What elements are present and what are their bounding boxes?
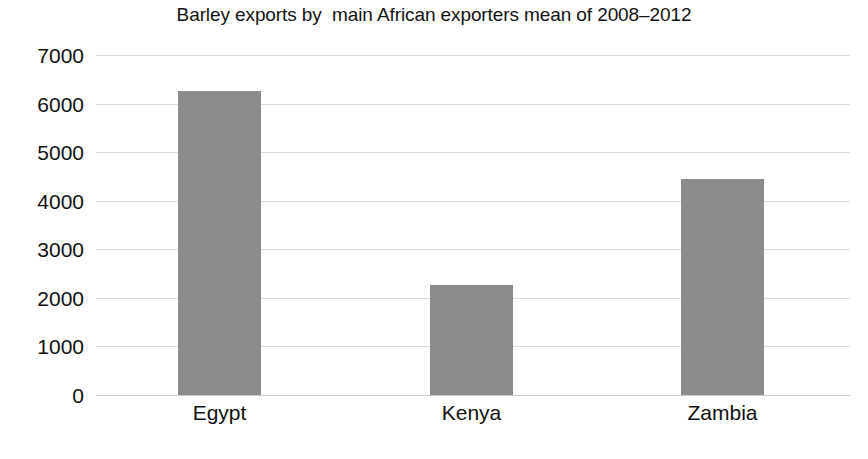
- gridline-7000: [96, 55, 850, 56]
- y-tick-label: 2000: [0, 287, 84, 308]
- x-tick-label-egypt: Egypt: [193, 400, 247, 425]
- bar-zambia[interactable]: [681, 179, 764, 395]
- bar-egypt[interactable]: [178, 91, 261, 395]
- y-tick-label: 1000: [0, 336, 84, 357]
- y-axis-tick-labels: 7000 6000 5000 4000 3000 2000 1000 0: [0, 55, 84, 395]
- x-tick-label-kenya: Kenya: [442, 400, 502, 425]
- plot-area: [96, 55, 850, 395]
- y-tick-label: 7000: [0, 45, 84, 66]
- gridline-0-baseline: [96, 395, 850, 396]
- y-tick-label: 0: [0, 385, 84, 406]
- cut-off-footer-text: [0, 452, 868, 459]
- chart-title: Barley exports by main African exporters…: [0, 4, 868, 26]
- bar-kenya[interactable]: [430, 285, 513, 395]
- x-tick-label-zambia: Zambia: [687, 400, 757, 425]
- bar-chart: Barley exports by main African exporters…: [0, 0, 868, 459]
- x-axis-tick-labels: Egypt Kenya Zambia: [96, 400, 850, 430]
- y-tick-label: 3000: [0, 239, 84, 260]
- y-tick-label: 5000: [0, 142, 84, 163]
- y-tick-label: 6000: [0, 93, 84, 114]
- y-tick-label: 4000: [0, 190, 84, 211]
